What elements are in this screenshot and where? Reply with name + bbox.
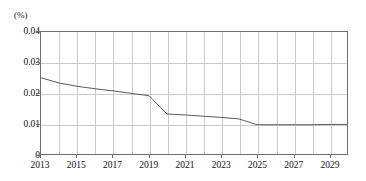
x-axis-tick-labels: 201320152017201920212023202520272029 <box>0 0 366 181</box>
x-tick-label: 2021 <box>165 160 205 171</box>
x-tick-mark <box>112 155 113 158</box>
x-tick-label: 2029 <box>310 160 350 171</box>
x-tick-label: 2025 <box>237 160 277 171</box>
x-tick-mark <box>76 155 77 158</box>
x-tick-mark <box>149 155 150 158</box>
x-tick-label: 2023 <box>201 160 241 171</box>
x-tick-mark <box>294 155 295 158</box>
x-tick-mark <box>185 155 186 158</box>
x-tick-label: 2017 <box>92 160 132 171</box>
x-tick-mark <box>221 155 222 158</box>
line-chart: (%) 0.040.030.020.010 201320152017201920… <box>0 0 366 181</box>
x-tick-mark <box>257 155 258 158</box>
x-tick-mark <box>330 155 331 158</box>
x-tick-label: 2019 <box>129 160 169 171</box>
x-tick-label: 2015 <box>56 160 96 171</box>
x-tick-label: 2013 <box>20 160 60 171</box>
x-tick-label: 2027 <box>274 160 314 171</box>
x-tick-mark <box>40 155 41 158</box>
